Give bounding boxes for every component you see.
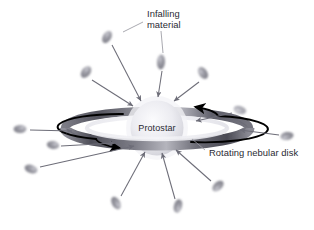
infalling-blob-7 xyxy=(280,131,294,141)
infalling-blob-8 xyxy=(46,140,59,149)
infalling-blob-10 xyxy=(210,179,225,194)
label-rotating-nebular-disk: Rotating nebular disk xyxy=(209,147,298,158)
infalling-blob-11 xyxy=(109,195,123,211)
infalling-blob-12 xyxy=(172,198,183,213)
infall-arrow-3 xyxy=(92,80,133,106)
infalling-blob-1 xyxy=(100,29,114,45)
infall-arrow-10 xyxy=(176,150,211,181)
infalling-blob-9 xyxy=(23,163,38,175)
infalling-blob-6 xyxy=(13,125,26,133)
leader-infalling-right xyxy=(161,31,163,53)
leader-infalling-left xyxy=(123,22,143,32)
infalling-blob-5 xyxy=(233,104,248,115)
infall-arrow-2 xyxy=(158,71,162,97)
label-infalling-line1: Infalling xyxy=(147,8,180,19)
protostar-diagram: Infalling material Protostar Rotating ne… xyxy=(0,0,314,230)
infalling-blob-2 xyxy=(156,54,165,69)
infall-arrow-1 xyxy=(112,45,141,101)
infall-arrow-12 xyxy=(162,153,175,199)
diagram-canvas: Infalling material Protostar Rotating ne… xyxy=(0,0,314,230)
infall-arrow-9 xyxy=(40,146,134,167)
label-infalling-line2: material xyxy=(147,19,181,30)
infalling-blob-4 xyxy=(196,65,210,81)
infalling-blob-3 xyxy=(79,64,94,80)
infall-arrow-11 xyxy=(121,152,145,196)
label-protostar: Protostar xyxy=(138,123,175,133)
infall-arrow-4 xyxy=(174,82,199,101)
